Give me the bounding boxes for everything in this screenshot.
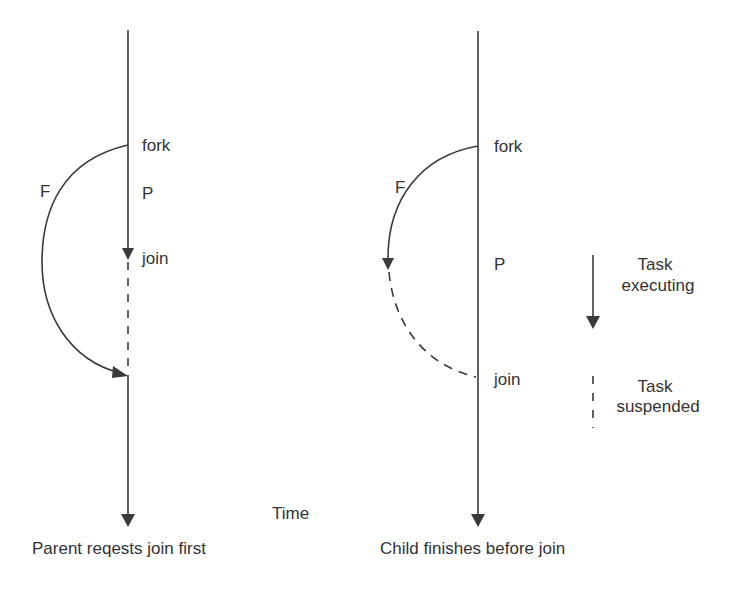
right-fork-label: fork [494, 137, 523, 156]
right-child-arc-suspended [389, 272, 476, 377]
fork-join-diagram: fork P F join fork P F join Task executi… [0, 0, 744, 592]
legend [586, 255, 600, 428]
left-child-arrowhead-icon [112, 366, 128, 378]
right-child-arc-executing [388, 146, 478, 258]
left-panel [42, 30, 135, 527]
left-child-label: F [40, 182, 50, 201]
right-parent-label: P [494, 255, 505, 274]
legend-executing-arrowhead-icon [586, 316, 600, 329]
legend-suspended-line2: suspended [616, 397, 699, 416]
right-join-label: join [493, 370, 520, 389]
left-join-label: join [141, 249, 168, 268]
legend-executing-line2: executing [622, 276, 695, 295]
left-time-arrowhead-icon [121, 514, 135, 527]
left-child-arc [42, 145, 128, 373]
left-fork-label: fork [142, 136, 171, 155]
left-parent-label: P [142, 184, 153, 203]
right-time-arrowhead-icon [471, 514, 485, 527]
left-caption: Parent reqests join first [32, 539, 206, 558]
right-child-label: F [395, 178, 405, 197]
legend-executing-line1: Task [638, 255, 673, 274]
legend-suspended-line1: Task [638, 377, 673, 396]
right-panel [382, 31, 485, 527]
time-axis-label: Time [272, 504, 309, 523]
left-join-arrowhead-icon [122, 248, 134, 260]
right-child-arrowhead-icon [382, 258, 394, 270]
right-caption: Child finishes before join [380, 539, 565, 558]
